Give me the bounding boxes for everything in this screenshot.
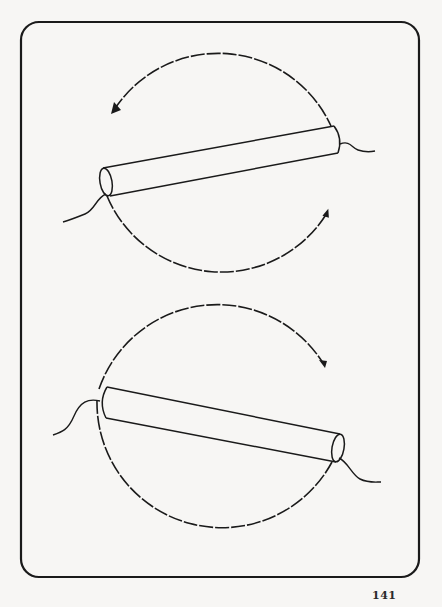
string-left (63, 194, 106, 222)
rotation-arc-upper (99, 305, 323, 389)
rotation-arc-upper (114, 53, 331, 126)
page-number: 141 (372, 589, 396, 602)
figure-frame (21, 22, 419, 577)
string-right (340, 143, 375, 152)
page: 141 (0, 0, 442, 607)
arrowhead-icon (321, 209, 329, 219)
rotation-arc-lower (97, 400, 332, 528)
bottom-rotation-panel (53, 305, 381, 528)
top-rotation-panel (63, 53, 375, 272)
arrowhead-icon (111, 102, 121, 114)
rotation-arc-lower (107, 196, 327, 272)
rotation-diagram (0, 0, 442, 607)
string-right (339, 458, 381, 482)
arrowhead-icon (319, 360, 327, 368)
rod-cylinder (98, 126, 340, 197)
string-left (53, 400, 100, 435)
rod-cylinder (102, 387, 346, 463)
